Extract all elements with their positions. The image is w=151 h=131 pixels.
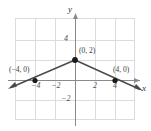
coordinate-graph-figure: y x 4 −2 −4 −2 2 4 (−4, 0) (0, 2) (4, 0)	[0, 0, 151, 131]
point-label-right: (4, 0)	[113, 66, 129, 74]
point-marker-vertex	[72, 57, 78, 63]
x-tick-label-4: 4	[113, 82, 117, 90]
x-axis-arrow-icon	[134, 78, 140, 83]
x-tick-label-neg2: −2	[51, 82, 60, 90]
x-tick-label-neg4: −4	[31, 82, 40, 90]
point-label-vertex: (0, 2)	[79, 47, 95, 55]
y-axis-arrow-icon	[73, 13, 78, 19]
y-tick-label-4: 4	[64, 35, 68, 43]
curve-right-branch	[75, 60, 139, 89]
point-label-left: (−4, 0)	[9, 66, 29, 74]
x-tick-label-2: 2	[93, 82, 97, 90]
y-tick-label-neg2: −2	[61, 95, 70, 103]
y-axis-label: y	[68, 5, 72, 14]
x-axis-label: x	[142, 84, 146, 93]
